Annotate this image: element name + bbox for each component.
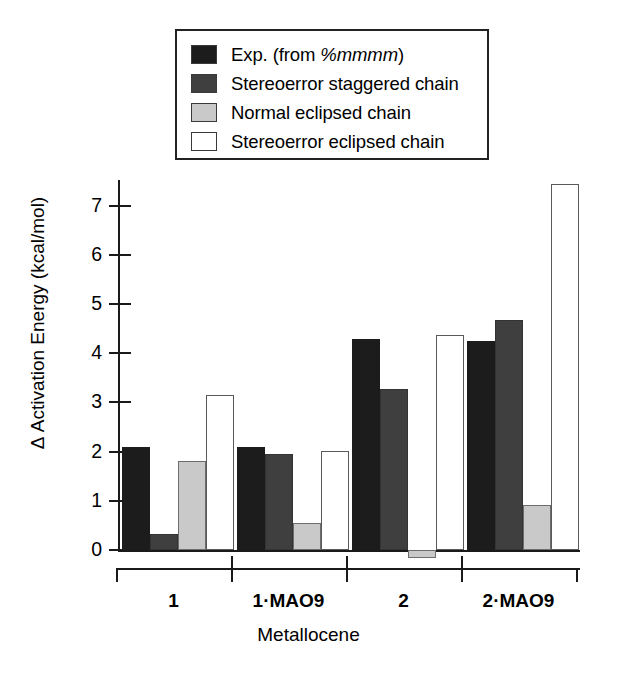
bar-1-series0	[122, 447, 150, 550]
y-axis-title: Δ Activation Energy (kcal/mol)	[27, 173, 49, 473]
y-axis-tick-label-7: 7	[72, 196, 102, 216]
x-axis-divider-3	[461, 556, 463, 582]
x-axis-label-2: 2	[346, 590, 461, 612]
x-axis-label-2MAO9: 2·MAO9	[461, 590, 576, 612]
bar-2-series1	[380, 389, 408, 550]
y-axis-line	[118, 180, 120, 552]
legend-label-exp: Exp. (from %mmmm)	[231, 45, 404, 64]
bar-2-series0	[352, 339, 380, 550]
legend-swatch-exp	[191, 45, 217, 64]
bar-2MAO9-series2	[523, 505, 551, 550]
legend-swatch-stereoerror-staggered	[191, 74, 217, 93]
x-axis-endcap-0	[116, 568, 118, 582]
chart-legend: Exp. (from %mmmm) Stereoerror staggered …	[175, 29, 489, 160]
bar-1-series3	[206, 395, 234, 550]
x-axis-divider-2	[346, 556, 348, 582]
y-axis-tick-label-4: 4	[72, 343, 102, 363]
x-axis-endcap-4	[576, 568, 578, 582]
plot-area	[118, 180, 580, 552]
y-axis-tick-4	[109, 352, 131, 354]
bar-1-series2	[178, 461, 206, 550]
y-axis-tick-7	[109, 205, 131, 207]
legend-swatch-stereoerror-eclipsed	[191, 132, 217, 151]
x-axis-divider-1	[231, 556, 233, 582]
x-axis-title: Metallocene	[0, 624, 617, 646]
legend-swatch-normal-eclipsed	[191, 103, 217, 122]
bar-2MAO9-series1	[495, 320, 523, 550]
bar-2MAO9-series3	[551, 184, 579, 550]
x-axis-label-1MAO9: 1·MAO9	[231, 590, 346, 612]
y-axis-tick-5	[109, 303, 131, 305]
x-axis-label-1: 1	[116, 590, 231, 612]
legend-label-stereoerror-staggered: Stereoerror staggered chain	[231, 74, 459, 93]
bar-2MAO9-series0	[467, 341, 495, 550]
y-axis-tick-label-5: 5	[72, 294, 102, 314]
bar-2-series3	[436, 335, 464, 550]
chart-figure: Exp. (from %mmmm) Stereoerror staggered …	[0, 0, 617, 686]
y-axis-tick-6	[109, 254, 131, 256]
x-axis-line	[118, 568, 580, 570]
legend-item-stereoerror-staggered: Stereoerror staggered chain	[191, 69, 487, 98]
legend-item-normal-eclipsed: Normal eclipsed chain	[191, 98, 487, 127]
y-axis-tick-label-2: 2	[72, 442, 102, 462]
bar-2-series2	[408, 550, 436, 558]
bar-1MAO9-series2	[293, 523, 321, 550]
legend-item-exp: Exp. (from %mmmm)	[191, 40, 487, 69]
legend-label-stereoerror-eclipsed: Stereoerror eclipsed chain	[231, 132, 444, 151]
bar-1MAO9-series3	[321, 451, 349, 550]
bar-1MAO9-series0	[237, 447, 265, 550]
y-axis-tick-label-0: 0	[72, 540, 102, 560]
y-axis-tick-label-6: 6	[72, 245, 102, 265]
legend-label-exp-italic: %mmmm	[320, 44, 398, 65]
y-axis-tick-label-1: 1	[72, 491, 102, 511]
y-axis-tick-3	[109, 401, 131, 403]
bar-1-series1	[150, 534, 178, 550]
x-axis-zero-line	[118, 550, 580, 552]
legend-label-normal-eclipsed: Normal eclipsed chain	[231, 103, 411, 122]
legend-item-stereoerror-eclipsed: Stereoerror eclipsed chain	[191, 127, 487, 156]
bar-1MAO9-series1	[265, 454, 293, 550]
y-axis-tick-label-3: 3	[72, 392, 102, 412]
